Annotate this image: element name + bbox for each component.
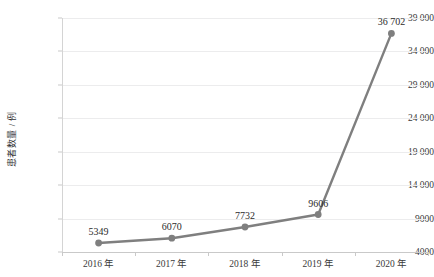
data-point-label: 6070 bbox=[162, 221, 182, 232]
y-axis-title: 患者数量 / 例 bbox=[5, 84, 18, 194]
x-axis-tick-label: 2017 年 bbox=[137, 256, 207, 270]
x-axis-tick-label: 2018 年 bbox=[210, 256, 280, 270]
x-axis-tick-label: 2020 年 bbox=[356, 256, 426, 270]
gridline bbox=[62, 185, 428, 186]
gridline bbox=[62, 51, 428, 52]
data-point-label: 5349 bbox=[89, 226, 109, 237]
x-axis-tick-label: 2019 年 bbox=[283, 256, 353, 270]
gridline bbox=[62, 18, 428, 19]
line-chart: 患者数量 / 例 4000900014 00019 00024 00029 00… bbox=[0, 0, 434, 277]
gridline bbox=[62, 152, 428, 153]
x-axis-tick-label: 2016 年 bbox=[64, 256, 134, 270]
y-axis-line bbox=[62, 18, 63, 253]
gridline bbox=[62, 85, 428, 86]
data-point-label: 9606 bbox=[308, 198, 328, 209]
x-axis-tickmark bbox=[428, 252, 429, 256]
data-point-label: 7732 bbox=[235, 210, 255, 221]
x-axis-line bbox=[62, 252, 428, 253]
data-point-label: 36 702 bbox=[378, 16, 406, 27]
gridline bbox=[62, 118, 428, 119]
